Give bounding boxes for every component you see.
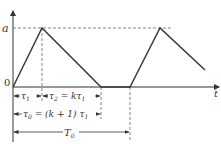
time-axis-label: t [214, 88, 219, 99]
tau0-label: τ0 = (k + 1) τ1 [23, 109, 88, 120]
amplitude-label: a [2, 22, 9, 35]
waveform-diagram: a 0 t τ1 τ2 = kτ1 τ0 = (k + 1) τ1 T0 [0, 0, 221, 144]
origin-label: 0 [4, 77, 10, 88]
